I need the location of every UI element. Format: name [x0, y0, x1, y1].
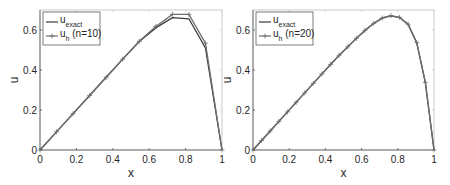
x-tick-label: 0.8 — [391, 154, 405, 165]
y-tick-label: 0.6 — [23, 25, 37, 36]
x-tick-label: 0.6 — [355, 154, 369, 165]
subplot-1: 00.20.40.60.8100.20.40.6xuuexactuh (n=10… — [7, 10, 225, 180]
plus-marker-icon — [388, 13, 393, 18]
plus-marker-icon — [220, 148, 225, 153]
y-axis-label: u — [7, 77, 21, 84]
plus-marker-icon — [432, 148, 437, 153]
x-tick-label: 0.4 — [318, 154, 332, 165]
x-tick-label: 0 — [250, 154, 256, 165]
y-tick-label: 0.2 — [236, 105, 250, 116]
plus-marker-icon — [414, 40, 419, 45]
x-tick-label: 0.2 — [282, 154, 296, 165]
subplot-2: 00.20.40.60.8100.20.40.6xuuexactuh (n=20… — [220, 10, 437, 180]
plus-marker-icon — [423, 80, 428, 85]
x-tick-label: 0.4 — [106, 154, 120, 165]
y-tick-label: 0 — [31, 145, 37, 156]
y-tick-label: 0 — [244, 145, 250, 156]
x-axis-label: x — [128, 166, 134, 180]
x-tick-label: 1 — [219, 154, 225, 165]
y-tick-label: 0.4 — [236, 65, 250, 76]
x-tick-label: 0.8 — [179, 154, 193, 165]
y-axis-label: u — [220, 77, 234, 84]
legend: uexactuh (n=10) — [43, 12, 101, 45]
figure: 00.20.40.60.8100.20.40.6xuuexactuh (n=10… — [0, 0, 450, 185]
x-tick-label: 1 — [431, 154, 437, 165]
x-tick-label: 0.6 — [142, 154, 156, 165]
x-tick-label: 0 — [37, 154, 43, 165]
legend: uexactuh (n=20) — [256, 12, 314, 45]
y-tick-label: 0.6 — [236, 25, 250, 36]
x-tick-label: 0.2 — [69, 154, 83, 165]
x-axis-label: x — [341, 166, 347, 180]
y-tick-label: 0.2 — [23, 105, 37, 116]
y-tick-label: 0.4 — [23, 65, 37, 76]
